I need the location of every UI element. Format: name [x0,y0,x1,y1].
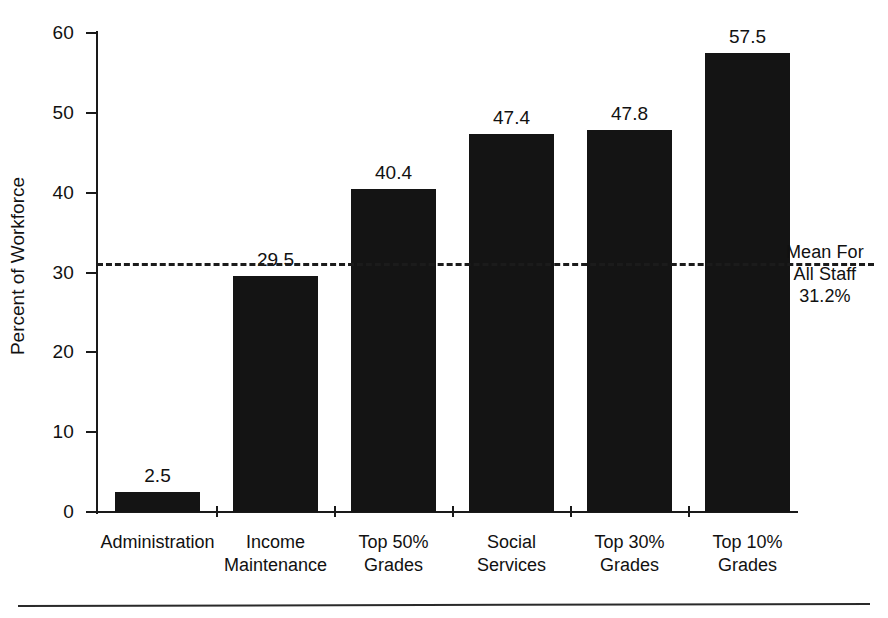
x-category-label: Administration [100,531,214,554]
x-category-label: SocialServices [477,531,546,577]
category-label-line: Grades [712,554,782,577]
mean-annotation-line1: Mean For [786,241,864,263]
category-label-line: Income [224,531,327,554]
y-tick [86,431,97,433]
footer-divider [18,603,870,607]
bar-value-label: 2.5 [144,465,170,487]
y-tick-label: 10 [14,421,74,443]
mean-annotation-line3: 31.2% [786,285,864,307]
category-label-line: Top 50% [358,531,428,554]
bar [469,134,554,512]
y-tick [86,511,97,513]
y-tick-label: 60 [14,22,74,44]
bar [587,130,672,512]
y-tick-label: 20 [14,341,74,363]
bar-chart: Percent of Workforce 0102030405060 2.5Ad… [0,0,888,618]
category-label-line: Grades [594,554,664,577]
y-tick-label: 40 [14,182,74,204]
x-tick [216,506,218,517]
x-tick [452,506,454,517]
y-tick-label: 50 [14,102,74,124]
category-label-line: Administration [100,531,214,554]
y-tick [86,351,97,353]
x-tick [570,506,572,517]
category-label-line: Top 30% [594,531,664,554]
bar [351,189,436,512]
bar [233,276,318,512]
category-label-line: Grades [358,554,428,577]
bar [115,492,200,512]
y-tick [86,32,97,34]
x-tick [688,506,690,517]
category-label-line: Social [477,531,546,554]
x-category-label: Top 10%Grades [712,531,782,577]
bar-value-label: 47.8 [611,103,648,125]
category-label-line: Top 10% [712,531,782,554]
bar-value-label: 57.5 [729,26,766,48]
mean-reference-line [97,263,874,266]
x-category-label: IncomeMaintenance [224,531,327,577]
x-axis-line [96,511,798,513]
x-tick [334,506,336,517]
bar-value-label: 47.4 [493,107,530,129]
y-tick [86,192,97,194]
y-tick-label: 30 [14,262,74,284]
bar-value-label: 29.5 [257,249,294,271]
mean-annotation-line2: All Staff [786,263,864,285]
mean-annotation: Mean For All Staff 31.2% [786,241,864,307]
category-label-line: Maintenance [224,554,327,577]
y-tick-label: 0 [14,501,74,523]
x-category-label: Top 30%Grades [594,531,664,577]
category-label-line: Services [477,554,546,577]
y-tick [86,272,97,274]
bar [705,53,790,512]
y-tick [86,112,97,114]
bar-value-label: 40.4 [375,162,412,184]
x-category-label: Top 50%Grades [358,531,428,577]
